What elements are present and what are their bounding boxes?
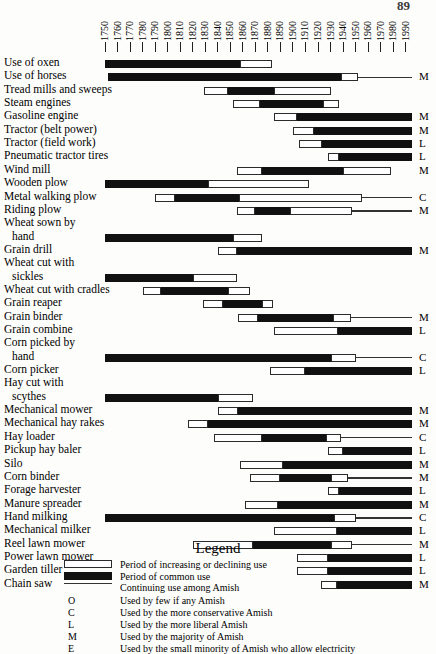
row-usage-code: M [419,311,433,324]
axis-tick [192,42,193,52]
segment-increasing-use [237,167,262,175]
legend-swatch-label: Period of common use [120,571,210,582]
axis-tick [318,42,319,52]
segment-increasing-use [328,447,343,455]
timeline-row: Wheat cut with [0,257,436,271]
continuing-use-line [341,437,412,438]
segment-common-use [223,300,262,308]
timeline-row: Corn pickerL [0,364,436,378]
segment-increasing-use [214,434,262,442]
segment-declining-use [341,73,359,81]
row-usage-code: M [419,471,433,484]
segment-increasing-use [328,487,339,495]
axis-tick [368,42,369,52]
continuing-use-line [362,197,412,198]
axis-tick-label: 1790 [150,21,160,41]
axis-tick [380,42,381,52]
axis-tick [117,42,118,52]
segment-common-use [339,487,412,495]
segment-common-use [338,327,412,335]
row-bar: L [0,364,436,378]
row-usage-code: L [419,364,433,377]
row-usage-code: M [419,498,433,511]
timeline-row: Wheat cut with cradles [0,284,436,298]
segment-increasing-use [270,367,305,375]
axis-tick [205,42,206,52]
timeline-row: Grain reaper [0,297,436,311]
row-usage-code: M [419,404,433,417]
row-usage-code: M [419,124,433,137]
legend-title: Legend [0,540,436,557]
axis-tick-label: 1770 [125,21,135,41]
segment-declining-use [208,180,309,188]
axis-tick [393,42,394,52]
axis-tick [330,42,331,52]
segment-increasing-use [203,300,223,308]
axis-tick-label: 1990 [401,21,411,41]
segment-increasing-use [274,327,338,335]
axis-tick-label: 1750 [100,21,110,41]
segment-common-use [297,113,412,121]
legend-code-label: Used by few if any Amish [120,595,225,606]
continuing-use-line [352,210,412,211]
row-label-line2: hand [12,230,34,243]
axis-tick-label: 1820 [188,21,198,41]
axis-tick-label: 1840 [213,21,223,41]
segment-increasing-use [143,287,162,295]
continuing-use-line [348,477,412,478]
segment-declining-use [239,194,362,202]
row-usage-code: L [419,484,433,497]
axis-tick [242,42,243,52]
row-bar: M [0,417,436,431]
axis-tick-label: 1940 [338,21,348,41]
axis-tick-label: 1870 [250,21,260,41]
row-usage-code: M [419,244,433,257]
axis-tick [280,42,281,52]
row-usage-code: M [419,458,433,471]
row-label: Hay cut with [4,376,63,389]
segment-increasing-use [293,127,314,135]
row-bar: M [0,458,436,472]
segment-common-use [208,420,412,428]
legend-code-key: M [68,631,80,642]
segment-common-use [255,207,290,215]
segment-common-use [278,501,412,509]
row-usage-code: C [419,511,433,524]
row-label: Corn picked by [4,336,75,349]
axis-tick [155,42,156,52]
row-bar: L [0,444,436,458]
year-axis: 89 1750176017701780179018001810182018301… [0,0,436,55]
segment-common-use [161,287,227,295]
segment-declining-use [228,287,251,295]
axis-tick [267,42,268,52]
segment-declining-use [290,207,351,215]
segment-common-use [283,461,412,469]
segment-declining-use [326,434,341,442]
axis-tick [105,42,106,52]
segment-increasing-use [274,527,337,535]
segment-common-use [238,407,412,415]
segment-common-use [314,127,412,135]
row-usage-code: M [419,164,433,177]
segment-increasing-use [233,100,261,108]
timeline-row: SiloM [0,458,436,472]
axis-tick-label: 1830 [200,21,210,41]
row-usage-code: L [419,150,433,163]
row-label: Wheat cut with [4,256,74,269]
axis-tick-label: 1850 [225,21,235,41]
axis-tick [217,42,218,52]
legend-swatch-inc [64,560,112,568]
axis-tick-label: 1960 [363,21,373,41]
axis-tick-label: 1950 [351,21,361,41]
segment-declining-use [240,60,271,68]
segment-declining-use [262,300,273,308]
legend-code-key: L [68,619,80,630]
legend-swatch-label: Continuing use among Amish [120,582,239,593]
axis-tick-label: 1900 [288,21,298,41]
row-usage-code: M [419,204,433,217]
segment-common-use [237,247,412,255]
row-usage-code: M [419,110,433,123]
segment-common-use [258,314,333,322]
segment-increasing-use [299,140,322,148]
row-label-line2: scythes [12,390,46,403]
